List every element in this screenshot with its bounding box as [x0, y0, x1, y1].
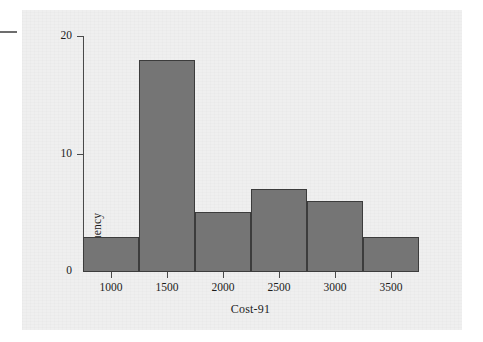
x-axis-title: Cost-91	[83, 302, 418, 317]
x-tick-label-3000: 3000	[308, 282, 362, 294]
histogram-figure: 20 10 0 Frequency 1000 1500 2000 2500	[0, 0, 483, 342]
bar-bin-750-1250	[83, 237, 139, 272]
bar-bin-2750-3250	[307, 201, 363, 273]
y-axis-title-holder: Frequency	[44, 100, 58, 210]
x-tick-label-1500: 1500	[140, 282, 194, 294]
x-tick-label-2000: 2000	[196, 282, 250, 294]
bar-bin-1750-2250	[195, 212, 251, 272]
y-tick-label-20: 20	[44, 30, 72, 42]
x-tick-label-1000: 1000	[84, 282, 138, 294]
bar-bin-2250-2750	[251, 189, 307, 272]
x-tick-3000	[335, 272, 336, 278]
y-tick-label-0-wrap: 0	[44, 265, 72, 277]
y-tick-20	[77, 36, 83, 37]
bar-bin-1250-1750	[139, 60, 195, 273]
x-tick-2000	[223, 272, 224, 278]
x-tick-1500	[167, 272, 168, 278]
y-tick-label-0: 0	[44, 265, 72, 277]
x-tick-3500	[391, 272, 392, 278]
y-tick-label-20-wrap: 20	[44, 30, 72, 42]
x-tick-label-2500: 2500	[252, 282, 306, 294]
bar-bin-3250-3750	[363, 237, 419, 272]
y-tick-10	[77, 154, 83, 155]
x-tick-label-3500: 3500	[364, 282, 418, 294]
plot-area: 20 10 0 Frequency 1000 1500 2000 2500	[0, 0, 483, 342]
x-tick-1000	[111, 272, 112, 278]
x-tick-2500	[279, 272, 280, 278]
